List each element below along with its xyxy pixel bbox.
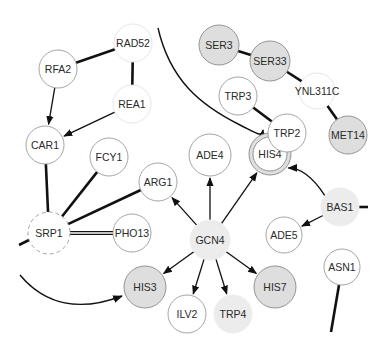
curve-edge-to-his3 bbox=[20, 275, 122, 304]
node-rad52[interactable]: RAD52 bbox=[114, 24, 152, 62]
node-label: SER33 bbox=[253, 55, 286, 67]
node-ilv2[interactable]: ILV2 bbox=[168, 295, 206, 333]
node-label: TRP2 bbox=[274, 127, 301, 139]
node-label: RFA2 bbox=[45, 63, 71, 75]
edge-ser3-ser33 bbox=[238, 51, 251, 55]
node-asn1[interactable]: ASN1 bbox=[324, 249, 360, 285]
node-rfa2[interactable]: RFA2 bbox=[39, 50, 77, 88]
node-ser3[interactable]: SER3 bbox=[199, 25, 239, 65]
node-his7[interactable]: HIS7 bbox=[254, 266, 296, 308]
node-label: BAS1 bbox=[327, 201, 354, 213]
node-ade5[interactable]: ADE5 bbox=[266, 217, 302, 253]
edge-fcy1-srp1 bbox=[62, 172, 97, 217]
node-his3[interactable]: HIS3 bbox=[124, 266, 166, 308]
edge-gcn4-his3 bbox=[164, 252, 194, 274]
srp1-left-stub bbox=[19, 240, 29, 245]
asn1-down-edge bbox=[331, 285, 339, 332]
node-label: HIS7 bbox=[263, 281, 287, 293]
edge-trp3-trp2 bbox=[253, 107, 272, 121]
node-ynl311c[interactable]: YNL311C bbox=[295, 73, 340, 109]
node-label: MET14 bbox=[331, 129, 365, 141]
node-bas1[interactable]: BAS1 bbox=[321, 188, 359, 226]
node-srp1[interactable]: SRP1 bbox=[28, 212, 70, 254]
node-label: ADE4 bbox=[196, 149, 224, 161]
edge-gcn4-arg1 bbox=[172, 198, 197, 225]
node-trp4[interactable]: TRP4 bbox=[214, 295, 252, 333]
edge-bas1-his4 bbox=[288, 168, 325, 196]
node-label: ADE5 bbox=[270, 229, 298, 241]
node-label: SRP1 bbox=[35, 227, 63, 239]
node-arg1[interactable]: ARG1 bbox=[139, 163, 177, 201]
edge-ynl311c-met14 bbox=[327, 106, 337, 120]
edge-gcn4-trp4 bbox=[216, 259, 227, 294]
node-label: TRP4 bbox=[220, 308, 247, 320]
node-label: SER3 bbox=[205, 39, 233, 51]
edge-ser33-ynl311c bbox=[287, 72, 302, 82]
node-label: YNL311C bbox=[295, 85, 340, 97]
node-label: ARG1 bbox=[144, 176, 173, 188]
edge-gcn4-his4 bbox=[221, 173, 256, 224]
node-gcn4[interactable]: GCN4 bbox=[190, 220, 230, 260]
edge-car1-srp1 bbox=[46, 164, 48, 212]
node-label: HIS3 bbox=[133, 281, 157, 293]
nodes-layer: RAD52RFA2REA1CAR1FCY1ARG1ADE4SRP1PHO13GC… bbox=[26, 24, 367, 333]
node-pho13[interactable]: PHO13 bbox=[113, 214, 151, 252]
node-label: FCY1 bbox=[96, 151, 123, 163]
edges-layer bbox=[46, 49, 337, 294]
edge-gcn4-his7 bbox=[226, 252, 256, 274]
node-label: ILV2 bbox=[177, 308, 198, 320]
node-ser33[interactable]: SER33 bbox=[250, 41, 290, 81]
node-label: REA1 bbox=[118, 98, 146, 110]
node-car1[interactable]: CAR1 bbox=[26, 126, 64, 164]
edge-rea1-car1 bbox=[64, 112, 115, 136]
node-label: RAD52 bbox=[116, 37, 150, 49]
node-label: ASN1 bbox=[328, 261, 356, 273]
node-label: GCN4 bbox=[195, 234, 224, 246]
node-trp3[interactable]: TRP3 bbox=[219, 77, 257, 115]
node-fcy1[interactable]: FCY1 bbox=[90, 138, 128, 176]
node-met14[interactable]: MET14 bbox=[329, 116, 367, 154]
network-diagram: RAD52RFA2REA1CAR1FCY1ARG1ADE4SRP1PHO13GC… bbox=[0, 0, 385, 352]
edge-bas1-ade5 bbox=[302, 215, 323, 226]
edge-gcn4-ilv2 bbox=[193, 259, 204, 294]
node-rea1[interactable]: REA1 bbox=[113, 85, 151, 123]
node-label: PHO13 bbox=[115, 227, 150, 239]
node-trp2[interactable]: TRP2 bbox=[268, 114, 306, 152]
node-ade4[interactable]: ADE4 bbox=[189, 134, 231, 176]
node-label: TRP3 bbox=[225, 90, 252, 102]
node-label: CAR1 bbox=[31, 139, 59, 151]
edge-rfa2-car1 bbox=[49, 88, 55, 125]
edge-rad52-rfa2 bbox=[76, 49, 115, 63]
